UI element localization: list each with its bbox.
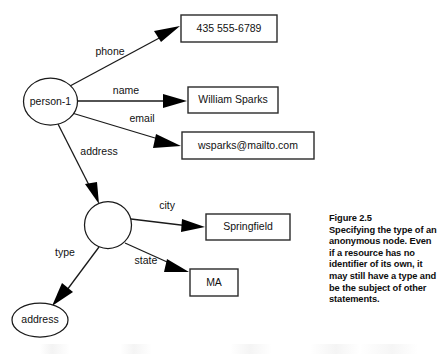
address-type-label: address bbox=[21, 313, 58, 325]
figure-2-5: 435 555-6789 William Sparks wsparks@mail… bbox=[0, 0, 440, 354]
edge-email-arrowhead bbox=[153, 134, 181, 148]
edge-address-label: address bbox=[80, 145, 117, 157]
literal-email[interactable]: wsparks@mailto.com bbox=[182, 132, 314, 159]
node-anonymous[interactable] bbox=[85, 202, 132, 249]
edge-name-arrowhead bbox=[163, 94, 187, 108]
figure-caption-body: Specifying the type of an anonymous node… bbox=[329, 225, 437, 306]
edge-state-arrowhead bbox=[164, 259, 189, 272]
literal-phone[interactable]: 435 555-6789 bbox=[181, 15, 277, 42]
edge-type-label: type bbox=[55, 246, 75, 258]
node-person-1[interactable]: person-1 bbox=[24, 78, 78, 125]
literal-state[interactable]: MA bbox=[190, 269, 238, 296]
edge-address-line bbox=[58, 124, 93, 193]
literal-name[interactable]: William Sparks bbox=[188, 87, 278, 113]
edge-phone-label: phone bbox=[95, 45, 124, 57]
literal-city[interactable]: Springfield bbox=[206, 214, 290, 240]
edge-city-line bbox=[131, 219, 189, 226]
state-value-label: MA bbox=[206, 276, 222, 288]
edge-name-label: name bbox=[113, 84, 139, 96]
node-address-type[interactable]: address bbox=[12, 303, 68, 337]
city-value-label: Springfield bbox=[223, 220, 273, 232]
edge-city-arrowhead bbox=[181, 219, 205, 232]
edge-city-label: city bbox=[159, 199, 176, 211]
edge-phone-arrowhead bbox=[154, 26, 180, 42]
edge-address-arrowhead bbox=[85, 182, 99, 204]
edge-phone-line bbox=[70, 36, 163, 86]
edge-state-label: state bbox=[135, 254, 158, 266]
name-value-label: William Sparks bbox=[198, 93, 267, 105]
arrowheads-layer bbox=[52, 26, 205, 306]
figure-caption-title: Figure 2.5 bbox=[329, 213, 437, 225]
page-scan-artifact bbox=[0, 344, 440, 354]
figure-caption: Figure 2.5 Specifying the type of an ano… bbox=[329, 213, 437, 306]
edges-layer bbox=[58, 36, 189, 294]
edge-email-label: email bbox=[129, 112, 154, 124]
email-value-label: wsparks@mailto.com bbox=[197, 139, 298, 151]
phone-value-label: 435 555-6789 bbox=[197, 22, 262, 34]
anonymous-node-circle[interactable] bbox=[85, 202, 132, 249]
person-1-label: person-1 bbox=[30, 95, 72, 107]
